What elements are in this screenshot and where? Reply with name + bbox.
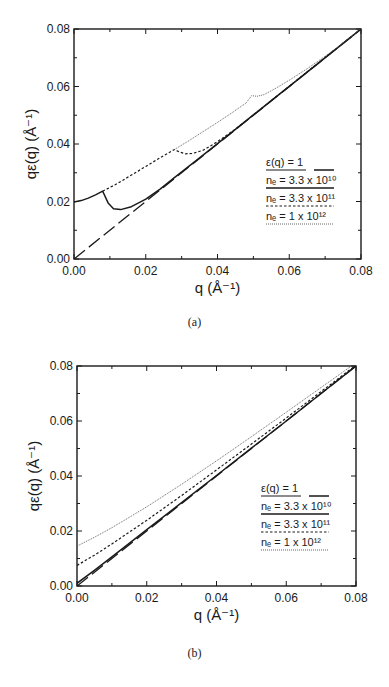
chart-panel-a: 0.000.020.040.060.080.000.020.040.060.08… bbox=[0, 0, 389, 340]
panel-caption-b: (b) bbox=[0, 646, 389, 661]
legend-label: nₑ = 1 x 10¹² bbox=[261, 536, 321, 548]
series-line-short-dash bbox=[103, 29, 361, 191]
y-tick-label: 0.06 bbox=[50, 414, 74, 428]
x-tick-label: 0.08 bbox=[344, 591, 368, 605]
x-tick-label: 0.00 bbox=[65, 591, 89, 605]
y-tick-label: 0.04 bbox=[47, 137, 71, 151]
legend-label: nₑ = 3.3 x 10¹⁰ bbox=[266, 174, 337, 186]
legend-label: nₑ = 3.3 x 10¹⁰ bbox=[261, 500, 332, 512]
legend: ε(q) = 1nₑ = 3.3 x 10¹⁰nₑ = 3.3 x 10¹¹nₑ… bbox=[266, 156, 337, 224]
y-tick-label: 0.08 bbox=[47, 22, 71, 36]
x-tick-label: 0.06 bbox=[278, 264, 302, 278]
legend-label: ε(q) = 1 bbox=[266, 156, 303, 168]
x-tick-label: 0.00 bbox=[62, 264, 86, 278]
x-tick-label: 0.06 bbox=[275, 591, 299, 605]
y-axis-label: qε(q) (Å⁻¹) bbox=[25, 441, 42, 512]
legend-label: nₑ = 1 x 10¹² bbox=[266, 210, 326, 222]
y-tick-label: 0.00 bbox=[50, 579, 74, 593]
y-tick-label: 0.08 bbox=[50, 359, 74, 373]
y-tick-label: 0.00 bbox=[47, 252, 71, 266]
plot-area-b: 0.000.020.040.060.080.000.020.040.060.08… bbox=[0, 340, 389, 687]
y-tick-label: 0.04 bbox=[50, 469, 74, 483]
y-tick-label: 0.02 bbox=[47, 195, 71, 209]
x-tick-label: 0.02 bbox=[134, 264, 158, 278]
x-tick-label: 0.04 bbox=[205, 591, 229, 605]
y-tick-label: 0.06 bbox=[47, 80, 71, 94]
x-tick-label: 0.02 bbox=[135, 591, 159, 605]
x-axis-label: q (Å⁻¹) bbox=[195, 279, 241, 296]
y-axis-label: qε(q) (Å⁻¹) bbox=[22, 109, 39, 180]
y-tick-label: 0.02 bbox=[50, 524, 74, 538]
legend-label: nₑ = 3.3 x 10¹¹ bbox=[266, 192, 336, 204]
legend-label: nₑ = 3.3 x 10¹¹ bbox=[261, 518, 331, 530]
series-line-solid bbox=[77, 366, 356, 583]
x-tick-label: 0.04 bbox=[206, 264, 230, 278]
panel-caption-a: (a) bbox=[0, 315, 389, 330]
x-axis-label: q (Å⁻¹) bbox=[194, 606, 240, 623]
x-tick-label: 0.08 bbox=[349, 264, 373, 278]
legend-label: ε(q) = 1 bbox=[261, 482, 298, 494]
plot-area-a: 0.000.020.040.060.080.000.020.040.060.08… bbox=[0, 0, 389, 340]
chart-panel-b: 0.000.020.040.060.080.000.020.040.060.08… bbox=[0, 340, 389, 687]
legend: ε(q) = 1nₑ = 3.3 x 10¹⁰nₑ = 3.3 x 10¹¹nₑ… bbox=[261, 482, 332, 550]
series-line-dotted bbox=[174, 28, 361, 149]
